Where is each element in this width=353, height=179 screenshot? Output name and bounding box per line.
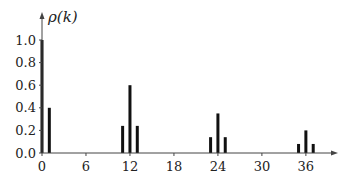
bar	[297, 144, 300, 153]
y-tick-label: 1.0	[15, 33, 36, 48]
bar	[216, 113, 219, 153]
bar	[48, 108, 51, 153]
x-tick-label: 24	[210, 159, 227, 174]
bar	[312, 144, 315, 153]
y-tick-label: 0.2	[15, 123, 36, 138]
bar	[304, 130, 307, 153]
x-axis-arrow-icon	[331, 151, 338, 156]
y-axis-arrow-icon	[40, 12, 45, 19]
x-tick-label: 6	[82, 159, 90, 174]
y-tick-label: 0.6	[15, 78, 36, 93]
autocorrelation-chart: 0.00.20.40.60.81.0 061218243036 ρ(k)	[0, 0, 353, 179]
bar	[136, 126, 139, 153]
y-tick-label: 0.0	[15, 146, 36, 161]
y-axis-label: ρ(k)	[47, 8, 78, 26]
x-tick-label: 18	[166, 159, 183, 174]
y-tick-label: 0.8	[15, 55, 36, 70]
x-tick-label: 12	[122, 159, 139, 174]
bar	[209, 137, 212, 153]
x-tick-label: 30	[254, 159, 271, 174]
x-tick-label: 36	[298, 159, 315, 174]
bar	[128, 85, 131, 153]
y-tick-label: 0.4	[15, 100, 36, 115]
x-tick-label: 0	[38, 159, 46, 174]
x-ticks: 061218243036	[38, 153, 314, 174]
bar	[121, 126, 124, 153]
y-ticks: 0.00.20.40.60.81.0	[15, 33, 42, 161]
bars	[41, 40, 315, 153]
bar	[224, 137, 227, 153]
